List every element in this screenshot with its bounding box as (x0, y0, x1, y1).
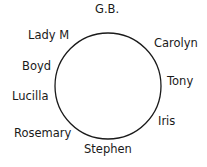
person-label: Iris (158, 116, 175, 128)
person-label: Carolyn (154, 38, 198, 50)
person-label: Stephen (84, 144, 132, 156)
person-label: G.B. (95, 4, 119, 16)
person-label: Lady M (28, 30, 69, 42)
person-label: Lucilla (12, 91, 48, 103)
person-label: Boyd (22, 61, 51, 73)
seating-diagram: G.B.CarolynTonyIrisStephenRosemaryLucill… (0, 0, 207, 167)
person-label: Tony (167, 76, 193, 88)
person-label: Rosemary (14, 128, 71, 140)
